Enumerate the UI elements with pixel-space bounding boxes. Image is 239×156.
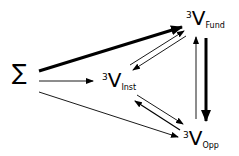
v-opp-node: 3VOpp xyxy=(183,128,219,148)
edge-inst-opp xyxy=(137,95,183,124)
v-inst-main: V xyxy=(108,68,122,92)
v-inst-node: 3VInst xyxy=(102,70,136,90)
v-inst-sub: Inst xyxy=(121,83,136,92)
v-opp-sup: 3 xyxy=(183,130,189,140)
edge-sigma-opp xyxy=(39,92,178,137)
edge-sigma-fund xyxy=(39,27,182,71)
v-fund-sub: Fund xyxy=(205,21,224,30)
v-opp-main: V xyxy=(189,126,203,150)
v-fund-main: V xyxy=(192,6,206,30)
sigma-node: ∑ xyxy=(12,62,27,84)
v-fund-sup: 3 xyxy=(186,10,192,20)
v-inst-sup: 3 xyxy=(102,72,108,82)
v-opp-sub: Opp xyxy=(202,141,218,150)
v-fund-node: 3VFund xyxy=(186,8,225,28)
